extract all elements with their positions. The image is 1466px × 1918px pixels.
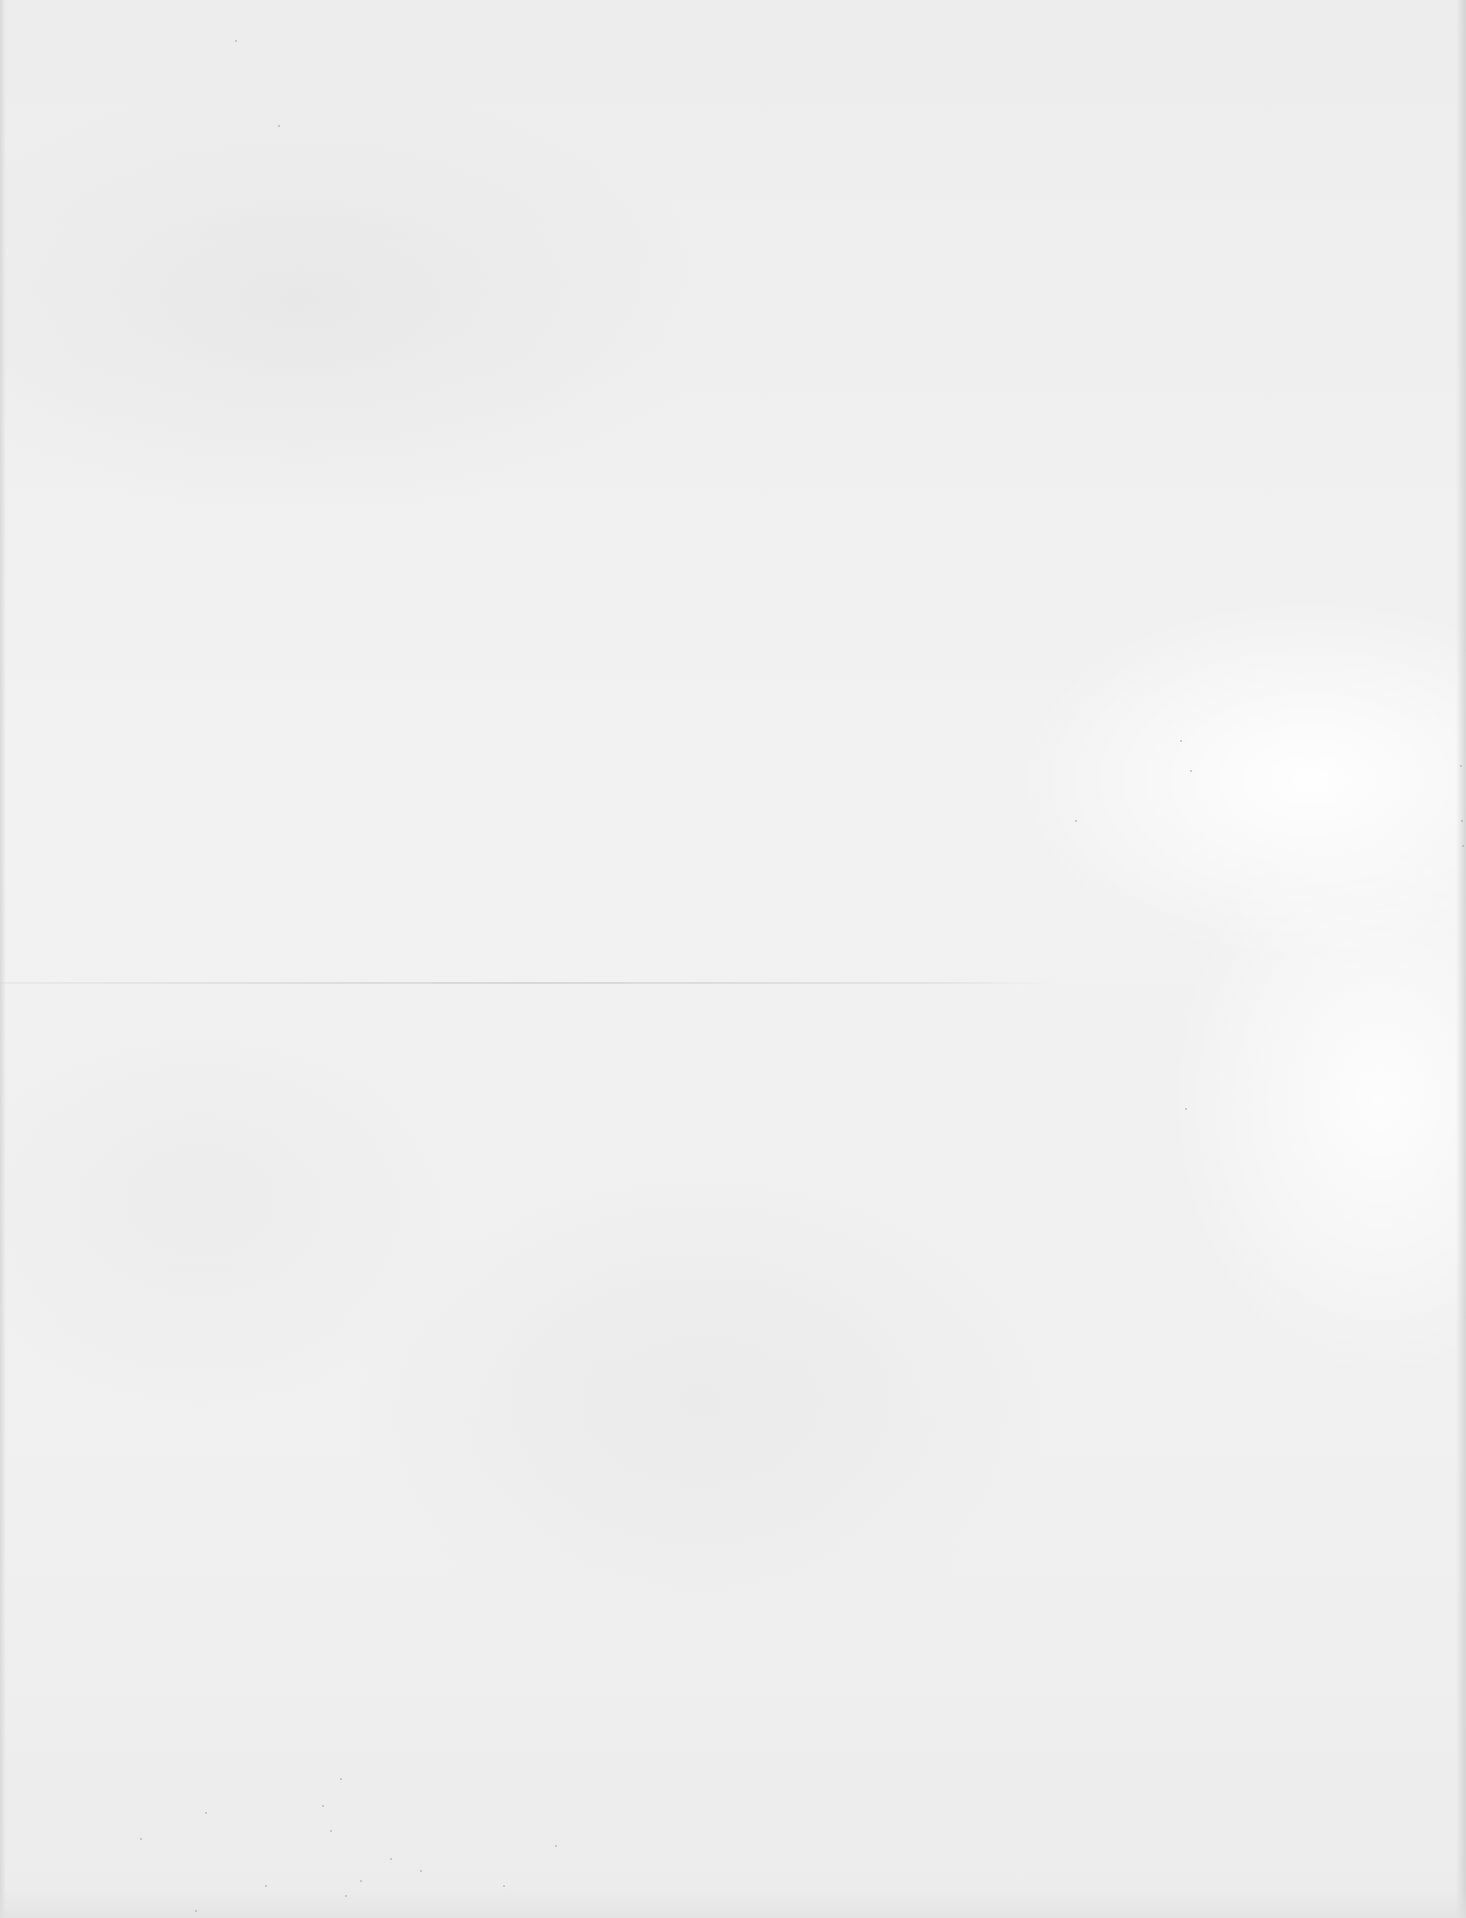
page-right-edge-shadow: [1456, 0, 1466, 1918]
speckle: [503, 1885, 505, 1887]
speckle: [205, 1812, 207, 1814]
blank-paper-page: [0, 0, 1466, 1918]
paper-fold-crease: [0, 982, 1050, 984]
speckle: [1185, 1108, 1187, 1110]
speckle: [330, 1830, 332, 1832]
speckle: [345, 1895, 347, 1897]
page-bottom-shadow: [0, 1888, 1466, 1918]
speckle: [1460, 765, 1462, 767]
speckle: [420, 1870, 422, 1872]
speckle: [195, 1910, 197, 1912]
speckle: [1075, 820, 1077, 822]
speckle: [278, 125, 280, 127]
speckle: [390, 1858, 392, 1860]
speckle: [1461, 820, 1463, 822]
speckle: [1462, 845, 1464, 847]
speckle: [340, 1778, 342, 1780]
speckle: [322, 1805, 324, 1807]
speckle: [140, 1838, 142, 1840]
page-left-edge-shadow: [0, 0, 6, 1918]
speckle: [1190, 770, 1192, 772]
speckle: [235, 40, 237, 42]
speckle: [265, 1885, 267, 1887]
speckle: [1180, 740, 1182, 742]
speckle: [360, 1880, 362, 1882]
speckle: [555, 1845, 557, 1847]
